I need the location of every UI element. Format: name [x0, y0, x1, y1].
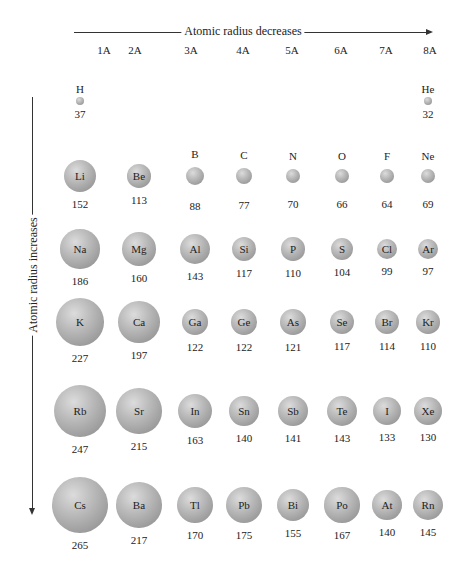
atom-sphere-pb: Pb	[226, 487, 263, 524]
element-symbol: In	[190, 405, 199, 417]
radius-value: 70	[288, 198, 299, 210]
element-symbol: F	[384, 150, 390, 162]
element-symbol: Ne	[422, 150, 435, 162]
radius-value: 88	[190, 200, 201, 212]
group-header-3a: 3A	[184, 44, 197, 56]
radius-value: 37	[75, 108, 86, 120]
element-symbol: Be	[133, 170, 145, 182]
radius-value: 160	[131, 272, 148, 284]
group-header-6a: 6A	[334, 44, 347, 56]
radius-value: 163	[187, 434, 204, 446]
element-symbol: Rn	[422, 499, 435, 511]
radius-value: 113	[131, 194, 147, 206]
element-symbol: S	[339, 243, 345, 255]
element-symbol: I	[385, 405, 389, 417]
atom-sphere-n	[286, 169, 301, 184]
element-symbol: Ar	[422, 243, 434, 255]
element-symbol: Cs	[74, 499, 86, 511]
atom-sphere-at: At	[372, 490, 401, 519]
radius-value: 143	[334, 432, 351, 444]
element-symbol: Kr	[422, 316, 434, 328]
group-header-5a: 5A	[285, 44, 298, 56]
element-symbol: As	[287, 316, 299, 328]
element-symbol: Sr	[134, 405, 144, 417]
radius-value: 197	[131, 349, 148, 361]
radius-value: 97	[423, 265, 434, 277]
element-symbol: Si	[239, 243, 248, 255]
down-arrow-icon	[29, 508, 35, 515]
radius-value: 167	[334, 529, 351, 541]
atom-sphere-b	[186, 167, 204, 185]
atom-sphere-cs: Cs	[52, 477, 108, 533]
radius-value: 99	[382, 265, 393, 277]
radius-value: 117	[236, 267, 252, 279]
atom-sphere-be: Be	[127, 164, 151, 188]
radius-value: 32	[423, 108, 434, 120]
radius-value: 175	[236, 529, 253, 541]
element-symbol: Mg	[131, 243, 146, 255]
element-symbol: Ba	[133, 499, 145, 511]
atom-sphere-al: Al	[180, 234, 210, 264]
atom-sphere-rb: Rb	[54, 385, 106, 437]
atom-sphere-in: In	[178, 394, 212, 428]
atom-sphere-k: K	[56, 298, 104, 346]
atom-sphere-li: Li	[64, 160, 96, 192]
element-symbol: Tl	[190, 499, 200, 511]
element-symbol: P	[290, 243, 296, 255]
group-header-1a: 1A	[97, 44, 110, 56]
radius-value: 77	[239, 199, 250, 211]
atom-sphere-po: Po	[324, 487, 359, 522]
radius-value: 141	[285, 432, 302, 444]
atom-sphere-rn: Rn	[413, 490, 443, 520]
element-symbol: Te	[337, 405, 348, 417]
group-header-2a: 2A	[128, 44, 141, 56]
atom-sphere-ga: Ga	[182, 309, 208, 335]
atom-sphere-s: S	[331, 238, 353, 260]
element-symbol: Se	[336, 316, 347, 328]
element-symbol: Na	[74, 243, 87, 255]
radius-value: 247	[72, 443, 89, 455]
atom-sphere-sb: Sb	[278, 396, 308, 426]
atom-sphere-f	[380, 169, 393, 182]
atom-sphere-se: Se	[330, 310, 355, 335]
atom-sphere-mg: Mg	[122, 232, 156, 266]
atom-sphere-xe: Xe	[414, 397, 441, 424]
atom-sphere-as: As	[280, 309, 305, 334]
radius-value: 64	[382, 198, 393, 210]
radius-value: 122	[187, 341, 204, 353]
atom-sphere-si: Si	[232, 237, 257, 262]
side-trend-label: Atomic radius increases	[26, 214, 41, 335]
atom-sphere-ba: Ba	[116, 482, 162, 528]
radius-value: 66	[337, 198, 348, 210]
atom-sphere-p: P	[281, 237, 304, 260]
radius-value: 140	[379, 526, 396, 538]
atom-sphere-te: Te	[327, 396, 357, 426]
top-trend-label: Atomic radius decreases	[181, 24, 304, 39]
radius-value: 170	[187, 529, 204, 541]
radius-value: 133	[379, 431, 396, 443]
radius-value: 110	[285, 267, 301, 279]
element-symbol: Pb	[238, 499, 250, 511]
radius-value: 104	[334, 266, 351, 278]
atom-sphere-he	[424, 97, 432, 105]
atom-sphere-i: I	[373, 397, 401, 425]
atom-sphere-bi: Bi	[277, 489, 310, 522]
radius-value: 110	[420, 340, 436, 352]
radius-value: 217	[131, 534, 148, 546]
element-symbol: C	[240, 149, 247, 161]
atom-sphere-ne	[421, 169, 435, 183]
element-symbol: Br	[381, 316, 392, 328]
radius-value: 114	[379, 340, 395, 352]
atom-sphere-sr: Sr	[116, 388, 161, 433]
element-symbol: Bi	[288, 499, 298, 511]
radius-value: 155	[285, 527, 302, 539]
element-symbol: At	[381, 499, 392, 511]
atom-sphere-tl: Tl	[177, 487, 213, 523]
element-symbol: N	[289, 150, 297, 162]
radius-value: 145	[420, 526, 437, 538]
element-symbol: Ge	[238, 316, 251, 328]
element-symbol: Ga	[189, 316, 202, 328]
element-symbol: Po	[336, 499, 348, 511]
atom-sphere-c	[236, 168, 252, 184]
group-header-8a: 8A	[423, 44, 436, 56]
